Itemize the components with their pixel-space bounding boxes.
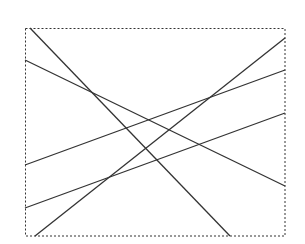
line-2 bbox=[25, 60, 285, 186]
line-arrangement-diagram bbox=[0, 0, 305, 244]
line-1 bbox=[30, 28, 230, 236]
line-4 bbox=[25, 113, 285, 208]
dashed-frame bbox=[26, 29, 286, 237]
line-5 bbox=[35, 38, 285, 236]
line-3 bbox=[25, 70, 285, 165]
line-group bbox=[25, 28, 285, 236]
